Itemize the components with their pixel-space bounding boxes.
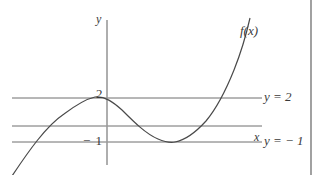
line-label-y-equals-2: y = 2 <box>264 90 292 103</box>
graph-canvas <box>0 0 327 175</box>
line-label-y-equals-negative-1: y = − 1 <box>264 134 304 147</box>
y-axis-label: y <box>96 13 101 25</box>
tick-label-two: 2 <box>96 87 103 100</box>
function-label: f(x) <box>240 24 258 37</box>
function-curve <box>12 18 250 175</box>
tick-label-negative-one: − 1 <box>83 134 103 147</box>
x-axis-label: x <box>254 131 259 143</box>
function-graph-figure: f(x) y x 2 − 1 y = 2 y = − 1 <box>0 0 327 175</box>
